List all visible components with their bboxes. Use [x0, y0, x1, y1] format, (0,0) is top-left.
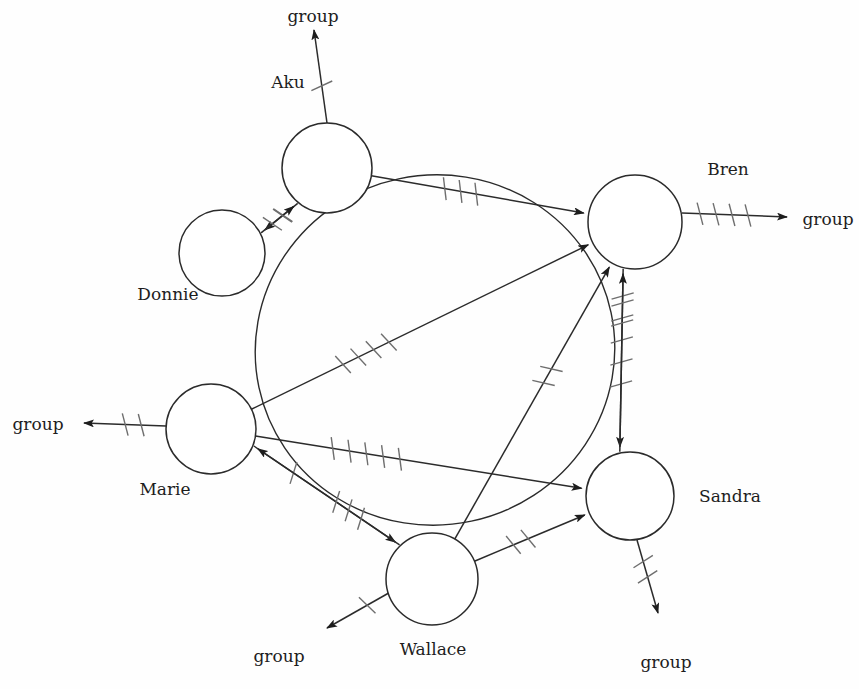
group-label-wallace-group: group [253, 646, 304, 666]
node-circle-sandra[interactable] [586, 452, 674, 540]
node-circle-aku[interactable] [282, 123, 372, 213]
group-label-marie-group: group [12, 414, 63, 434]
group-label-aku-group: group [287, 6, 338, 26]
node-label-bren: Bren [707, 159, 749, 179]
edge-wallace-sandra [474, 515, 584, 561]
edge-wallace-marie-tick [333, 491, 340, 513]
node-label-sandra: Sandra [699, 486, 761, 506]
group-edge-wallace-group-tick [359, 597, 376, 613]
edge-marie-bren-tick [351, 349, 367, 366]
edge-line-aku-bren [371, 176, 583, 213]
sociogram-diagram: AkuDonnieBrenSandraWallaceMariegroupgrou… [0, 0, 859, 689]
group-boundary-ellipse [223, 141, 648, 558]
node-circle-wallace[interactable] [386, 533, 478, 625]
internal-edges-layer [251, 176, 633, 561]
group-edge-line-wallace-group [327, 590, 394, 628]
group-label-bren-group: group [802, 209, 853, 229]
group-edge-sandra-group [634, 540, 658, 613]
node-label-marie: Marie [139, 479, 190, 499]
edge-marie-bren-tick [335, 356, 351, 373]
group-edge-bren-group [682, 203, 787, 227]
nodes-layer [166, 123, 682, 625]
group-edge-marie-group [84, 413, 166, 436]
node-circle-marie[interactable] [166, 384, 256, 474]
edge-line-marie-bren [251, 245, 588, 409]
group-boundary-layer [223, 141, 648, 558]
edge-wallace-marie [258, 449, 400, 545]
edge-line-wallace-marie [258, 449, 400, 545]
edge-marie-bren-tick [381, 334, 397, 351]
group-edge-aku-group [311, 30, 332, 123]
edge-wallace-bren-tick [532, 380, 554, 385]
group-edge-sandra-group-tick [638, 571, 657, 583]
group-edge-line-aku-group [314, 30, 327, 123]
group-label-sandra-group: group [640, 652, 691, 672]
edge-wallace-bren-tick [540, 366, 562, 371]
node-label-wallace: Wallace [400, 639, 467, 659]
edge-donnie-aku [261, 206, 294, 232]
group-edge-sandra-group-tick [634, 555, 653, 567]
group-edge-line-bren-group [682, 213, 787, 217]
edge-line-wallace-sandra [474, 515, 584, 561]
edge-marie-bren [251, 245, 588, 409]
node-label-donnie: Donnie [137, 284, 198, 304]
edge-wallace-sandra-tick [521, 530, 536, 548]
group-edge-wallace-group [327, 590, 394, 628]
node-circle-bren[interactable] [588, 175, 682, 269]
node-label-aku: Aku [270, 72, 305, 92]
edge-marie-bren-tick [366, 341, 382, 358]
sociogram-canvas: AkuDonnieBrenSandraWallaceMariegroupgrou… [0, 0, 859, 689]
edge-aku-bren [371, 176, 583, 213]
edge-wallace-sandra-tick [506, 536, 521, 554]
